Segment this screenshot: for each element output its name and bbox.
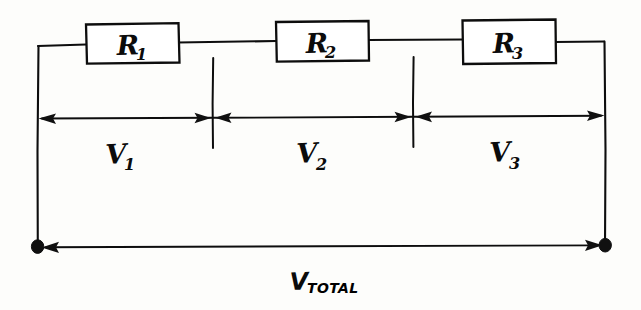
- left-terminal-node: [31, 240, 43, 254]
- divider-tick-between-v1-v2: [195, 58, 232, 148]
- tick-line-1: [213, 58, 214, 148]
- right-terminal-node: [599, 238, 611, 252]
- wire-top-left-stub: [38, 45, 86, 47]
- voltage-v3-subscript: 3: [509, 154, 520, 173]
- voltage-dimension-line: [42, 116, 601, 119]
- wire-r1-to-r2: [178, 41, 276, 43]
- voltage-label-v3: V 3: [489, 136, 520, 173]
- total-voltage-label: V TOTAL: [289, 267, 358, 296]
- tick-line-2: [413, 57, 414, 147]
- wire-r3-to-right-rail: [555, 42, 604, 43]
- voltage-label-v1: V 1: [105, 138, 135, 174]
- wire-r2-to-r3: [368, 40, 463, 41]
- wire-right-rail: [605, 42, 606, 247]
- divider-tick-between-v2-v3: [395, 57, 433, 147]
- resistor-r1-subscript: 1: [136, 45, 147, 64]
- circuit-schematic-canvas: R 1 R 2 R 3: [0, 0, 641, 310]
- wire-left-rail: [38, 46, 39, 247]
- circuit-diagram: R 1 R 2 R 3: [0, 0, 641, 310]
- voltage-label-v2: V 2: [296, 137, 327, 174]
- resistor-r3-subscript: 3: [512, 44, 523, 63]
- vtotal-subscript: TOTAL: [307, 280, 359, 296]
- voltage-v1-subscript: 1: [124, 155, 135, 174]
- total-voltage-dimension-line: [46, 245, 598, 247]
- resistor-r2-subscript: 2: [324, 43, 336, 62]
- voltage-v2-subscript: 2: [315, 155, 327, 174]
